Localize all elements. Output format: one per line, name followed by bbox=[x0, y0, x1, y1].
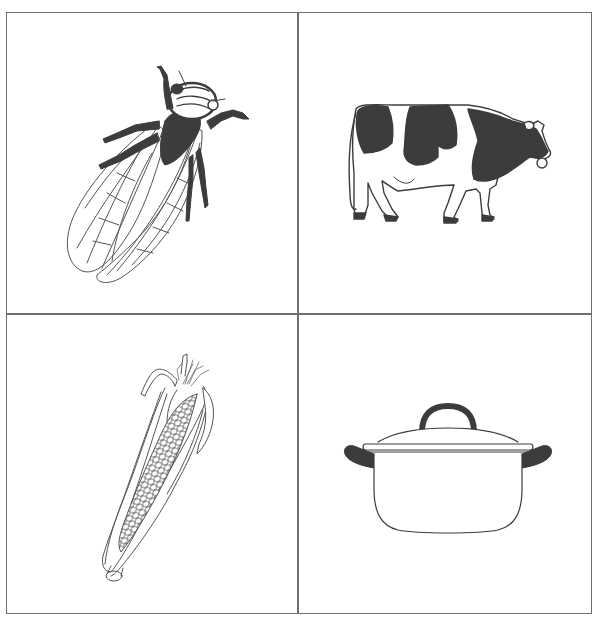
cow-icon bbox=[298, 13, 593, 313]
cicada-icon bbox=[7, 13, 297, 313]
corn-icon bbox=[7, 314, 297, 614]
grid-cell-top-left[interactable]: cicada bbox=[7, 13, 297, 313]
grid-cell-bottom-left[interactable]: corn bbox=[7, 314, 297, 614]
picture-grid: cicada bbox=[6, 12, 592, 614]
grid-cell-bottom-right[interactable]: pot bbox=[298, 314, 593, 614]
grid-cell-top-right[interactable]: cow bbox=[298, 13, 593, 313]
pot-icon bbox=[298, 314, 593, 614]
